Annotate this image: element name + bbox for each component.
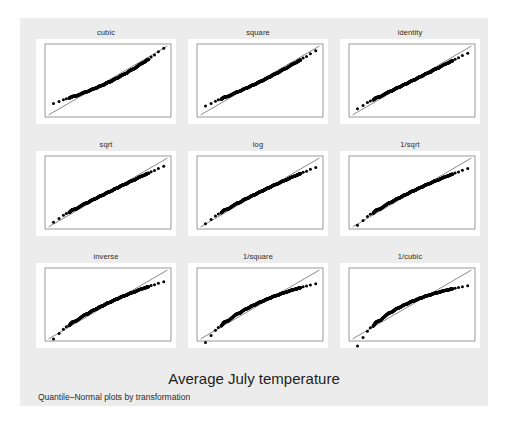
page-title: Average July temperature (20, 370, 488, 387)
panel-plot-area (340, 263, 480, 348)
panel-plot-area (36, 263, 176, 348)
panel-plot-area (36, 39, 176, 124)
qq-panel-cubic: cubic (36, 26, 176, 124)
panel-title: identity (340, 26, 480, 39)
qq-panel-1-square: 1/square (188, 250, 328, 348)
panel-title: 1/cubic (340, 250, 480, 263)
qq-panel-inverse: inverse (36, 250, 176, 348)
page-subtitle: Quantile–Normal plots by transformation (38, 392, 190, 402)
qq-panel-log: log (188, 138, 328, 236)
panel-title: cubic (36, 26, 176, 39)
data-points (356, 167, 469, 227)
qq-panel-square: square (188, 26, 328, 124)
panel-title: log (188, 138, 328, 151)
panel-grid: cubicsquareidentitysqrtlog1/sqrtinverse1… (36, 26, 480, 366)
panel-plot-area (340, 151, 480, 236)
qq-panel-1-sqrt: 1/sqrt (340, 138, 480, 236)
panel-plot-area (188, 39, 328, 124)
panel-plot-area (36, 151, 176, 236)
data-points (52, 280, 165, 340)
qq-panel-1-cubic: 1/cubic (340, 250, 480, 348)
data-points (204, 166, 317, 225)
panel-title: sqrt (36, 138, 176, 151)
panel-title: 1/square (188, 250, 328, 263)
qq-panel-identity: identity (340, 26, 480, 124)
panel-plot-area (188, 151, 328, 236)
data-points (356, 52, 469, 111)
reference-line (49, 46, 168, 115)
panel-title: square (188, 26, 328, 39)
caption-block: Average July temperature Quantile–Normal… (20, 370, 488, 406)
figure-page: cubicsquareidentitysqrtlog1/sqrtinverse1… (0, 0, 508, 425)
panel-title: inverse (36, 250, 176, 263)
data-points (52, 47, 165, 105)
data-points (356, 284, 469, 347)
data-points (204, 282, 317, 344)
qq-panel-sqrt: sqrt (36, 138, 176, 236)
panel-plot-area (188, 263, 328, 348)
panel-plot-area (340, 39, 480, 124)
panel-title: 1/sqrt (340, 138, 480, 151)
graph-region: cubicsquareidentitysqrtlog1/sqrtinverse1… (20, 18, 488, 406)
data-points (204, 49, 317, 107)
